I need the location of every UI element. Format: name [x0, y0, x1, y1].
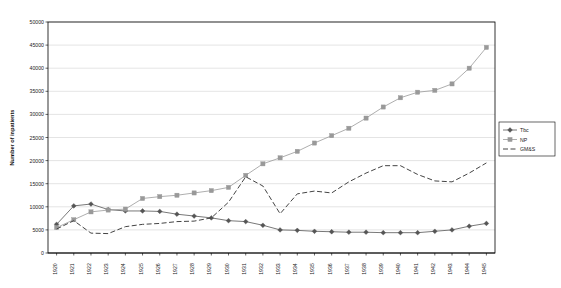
x-tick-label: 1938 — [361, 263, 367, 275]
series-marker — [106, 208, 110, 212]
y-axis-tick-labels: 0500010000150002000025000300003500040000… — [30, 19, 48, 256]
series-marker — [244, 173, 248, 177]
series-marker — [467, 66, 471, 70]
y-tick-label: 20000 — [30, 158, 45, 164]
x-tick-label: 1937 — [344, 263, 350, 275]
x-tick-label: 1939 — [378, 263, 384, 275]
y-tick-label: 45000 — [30, 42, 45, 48]
chart-container: 0500010000150002000025000300003500040000… — [0, 0, 561, 288]
series-marker — [54, 225, 58, 229]
series-marker — [347, 126, 351, 130]
x-tick-label: 1943 — [447, 263, 453, 275]
x-tick-label: 1929 — [206, 263, 212, 275]
y-tick-label: 40000 — [30, 65, 45, 71]
series-marker — [175, 193, 179, 197]
y-tick-label: 30000 — [30, 111, 45, 117]
series-marker — [140, 196, 144, 200]
x-tick-label: 1942 — [430, 263, 436, 275]
x-tick-label: 1932 — [258, 263, 264, 275]
series-marker — [209, 189, 213, 193]
x-tick-label: 1920 — [52, 263, 58, 275]
x-axis-tick-labels: 1920192119221923192419251926192719281929… — [52, 253, 488, 275]
y-tick-label: 50000 — [30, 19, 45, 25]
series-marker — [89, 210, 93, 214]
x-tick-label: 1924 — [120, 263, 126, 275]
series-marker — [484, 45, 488, 49]
legend-label: NP — [520, 137, 528, 143]
x-tick-label: 1934 — [292, 263, 298, 275]
x-tick-label: 1930 — [224, 263, 230, 275]
series-marker — [381, 105, 385, 109]
x-tick-label: 1936 — [327, 263, 333, 275]
x-tick-label: 1945 — [481, 263, 487, 275]
series-marker — [416, 90, 420, 94]
series-marker — [226, 185, 230, 189]
legend-label: GM&S — [520, 146, 536, 152]
x-tick-label: 1928 — [189, 263, 195, 275]
x-tick-label: 1926 — [155, 263, 161, 275]
x-tick-label: 1931 — [241, 263, 247, 275]
x-tick-label: 1923 — [103, 263, 109, 275]
y-tick-label: 10000 — [30, 204, 45, 210]
x-tick-label: 1941 — [413, 263, 419, 275]
x-tick-label: 1921 — [69, 263, 75, 275]
legend: TbcNPGM&S — [499, 122, 555, 156]
x-tick-label: 1933 — [275, 263, 281, 275]
x-tick-label: 1940 — [395, 263, 401, 275]
x-tick-label: 1927 — [172, 263, 178, 275]
series-marker — [450, 82, 454, 86]
x-tick-label: 1925 — [138, 263, 144, 275]
series-marker — [312, 141, 316, 145]
series-marker — [158, 195, 162, 199]
series-marker — [278, 156, 282, 160]
x-tick-label: 1935 — [309, 263, 315, 275]
x-tick-label: 1922 — [86, 263, 92, 275]
x-tick-label: 1944 — [464, 263, 470, 275]
y-axis-title: Number of inpatients — [9, 110, 15, 166]
series-marker — [364, 116, 368, 120]
series-marker — [295, 149, 299, 153]
inpatients-line-chart: 0500010000150002000025000300003500040000… — [0, 0, 561, 288]
series-marker — [192, 191, 196, 195]
series-marker — [398, 96, 402, 100]
series-marker — [123, 207, 127, 211]
legend-label: Tbc — [520, 127, 529, 133]
y-tick-label: 5000 — [32, 227, 44, 233]
y-tick-label: 15000 — [30, 181, 45, 187]
y-tick-label: 25000 — [30, 135, 45, 141]
series-marker — [261, 162, 265, 166]
y-tick-label: 0 — [41, 250, 44, 256]
legend-swatch-marker — [508, 137, 512, 141]
y-tick-label: 35000 — [30, 88, 45, 94]
series-marker — [433, 88, 437, 92]
series-marker — [330, 134, 334, 138]
